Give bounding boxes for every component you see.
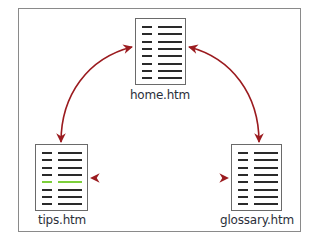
node-label-glossary: glossary.htm — [211, 213, 303, 227]
doc-text-line — [42, 181, 52, 183]
doc-text-line — [238, 181, 248, 183]
doc-text-line — [158, 26, 182, 28]
doc-text-line — [142, 63, 152, 65]
doc-text-line — [58, 189, 82, 191]
doc-text-line — [58, 167, 82, 169]
doc-text-line — [254, 152, 278, 154]
doc-text-line — [142, 70, 152, 72]
doc-text-line — [158, 70, 182, 72]
doc-text-line — [142, 77, 152, 79]
node-label-home: home.htm — [120, 88, 200, 102]
doc-text-line — [42, 189, 52, 191]
doc-text-line — [58, 152, 82, 154]
doc-text-line — [254, 159, 278, 161]
doc-text-line — [42, 152, 52, 154]
doc-text-line — [158, 41, 182, 43]
doc-text-line — [238, 159, 248, 161]
doc-text-line — [58, 159, 82, 161]
doc-text-line — [254, 189, 278, 191]
doc-text-line — [254, 181, 278, 183]
doc-text-line — [158, 55, 182, 57]
doc-text-line — [42, 174, 52, 176]
doc-text-line — [254, 196, 278, 198]
doc-text-line — [238, 189, 248, 191]
doc-text-line — [142, 33, 152, 35]
doc-text-line — [158, 77, 182, 79]
doc-text-line — [58, 181, 82, 183]
doc-text-line — [238, 196, 248, 198]
document-icon-tips[interactable] — [35, 144, 88, 211]
node-label-tips: tips.htm — [22, 213, 102, 227]
doc-text-line — [142, 48, 152, 50]
doc-text-line — [254, 174, 278, 176]
doc-text-line — [238, 167, 248, 169]
doc-text-line — [58, 174, 82, 176]
document-icon-home[interactable] — [135, 18, 186, 85]
doc-text-line — [238, 174, 248, 176]
doc-text-line — [158, 33, 182, 35]
doc-text-line — [238, 152, 248, 154]
doc-text-line — [158, 48, 182, 50]
doc-text-line — [58, 203, 82, 205]
doc-text-line — [42, 159, 52, 161]
document-icon-glossary[interactable] — [231, 144, 282, 211]
doc-text-line — [254, 167, 278, 169]
doc-text-line — [42, 167, 52, 169]
doc-text-line — [158, 63, 182, 65]
doc-text-line — [42, 203, 52, 205]
doc-text-line — [142, 26, 152, 28]
doc-text-line — [238, 203, 248, 205]
doc-text-line — [42, 196, 52, 198]
doc-text-line — [58, 196, 82, 198]
doc-text-line — [254, 203, 278, 205]
doc-text-line — [142, 55, 152, 57]
doc-text-line — [142, 41, 152, 43]
